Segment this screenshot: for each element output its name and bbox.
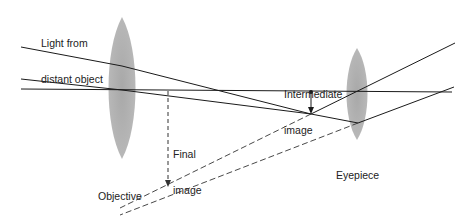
- eyepiece-label: Eyepiece: [336, 145, 379, 193]
- final-image-label: Final image: [173, 124, 202, 208]
- objective-lens-label: Objective lens: [98, 166, 142, 222]
- upper-virtual-ray-extension: [120, 114, 311, 208]
- objective-lens: [109, 17, 136, 159]
- intermediate-image-label: Intermediate image: [284, 64, 342, 148]
- light-source-label: Light from distant object: [41, 13, 103, 97]
- eyepiece-lens: [347, 48, 368, 140]
